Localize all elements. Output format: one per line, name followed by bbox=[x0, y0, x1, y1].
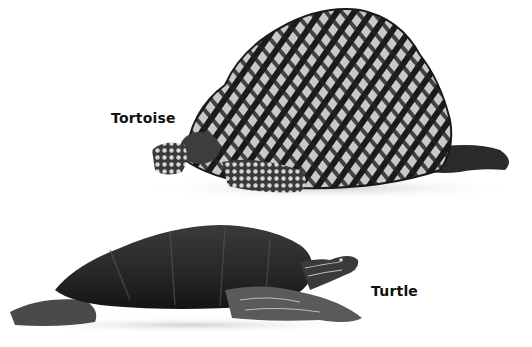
turtle-label: Turtle bbox=[371, 283, 418, 299]
tortoise-turtle-figure: Tortoise Turtle bbox=[0, 0, 532, 347]
tortoise-label: Tortoise bbox=[111, 110, 176, 126]
illustration bbox=[0, 0, 532, 347]
tortoise-image bbox=[140, 9, 520, 200]
turtle-image bbox=[10, 225, 370, 333]
